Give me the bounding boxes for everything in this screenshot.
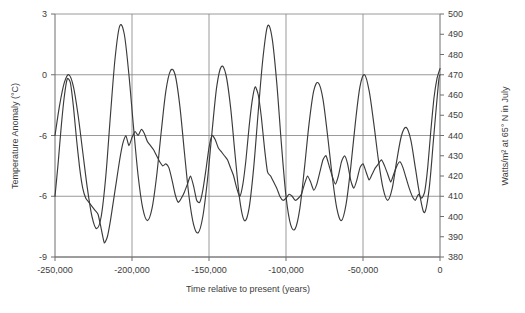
y2-tick-label: 410 <box>448 191 463 201</box>
y2-tick-label: 440 <box>448 131 463 141</box>
y2-tick-label: 430 <box>448 151 463 161</box>
y-tick-label: -6 <box>39 191 47 201</box>
x-tick-label: -200,000 <box>114 265 150 275</box>
y2-tick-label: 460 <box>448 90 463 100</box>
insolation-temperature-chart: 30-6-6-950049048047046045044043042041040… <box>0 0 525 313</box>
x-tick-label: 0 <box>437 265 442 275</box>
y2-tick-label: 420 <box>448 171 463 181</box>
x-tick-label: -100,000 <box>268 265 304 275</box>
x-tick-label: -250,000 <box>37 265 73 275</box>
y-tick-label: 0 <box>42 70 47 80</box>
bottom-axis-title: Time relative to present (years) <box>186 284 310 294</box>
x-tick-label: -50,000 <box>348 265 379 275</box>
y2-tick-label: 470 <box>448 70 463 80</box>
y2-tick-label: 450 <box>448 110 463 120</box>
y2-tick-label: 500 <box>448 9 463 19</box>
y2-tick-label: 480 <box>448 50 463 60</box>
x-tick-label: -150,000 <box>191 265 227 275</box>
y2-tick-label: 390 <box>448 232 463 242</box>
y2-tick-label: 400 <box>448 212 463 222</box>
y-tick-label: -9 <box>39 252 47 262</box>
left-axis-title: Temperature Anomaly (°C) <box>10 83 20 189</box>
y2-tick-label: 490 <box>448 29 463 39</box>
y-tick-label: -6 <box>39 131 47 141</box>
chart-container: 30-6-6-950049048047046045044043042041040… <box>0 0 525 313</box>
y2-tick-label: 380 <box>448 252 463 262</box>
right-axis-title: Watts/m² at 65° N in July <box>500 86 510 185</box>
y-tick-label: 3 <box>42 9 47 19</box>
